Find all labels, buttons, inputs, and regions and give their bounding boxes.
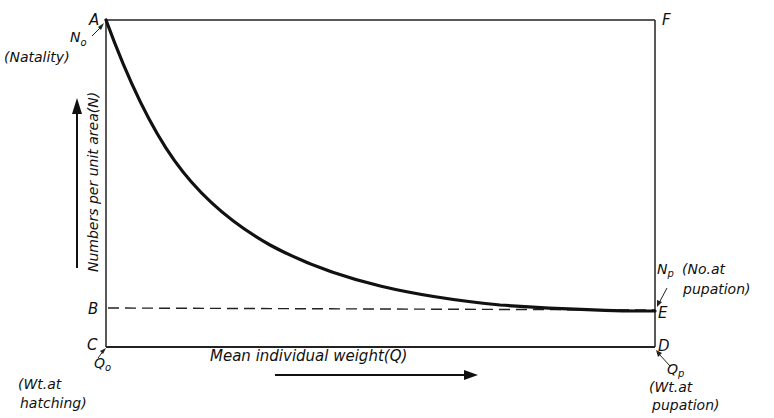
hatching-arrowhead-icon (100, 348, 106, 354)
pupation-weight-subscript: p (677, 368, 684, 379)
pupation-number-label-line1: (No.at (682, 261, 726, 277)
population-weight-diagram: A F B C E D No (Natality) Numbers per un… (0, 0, 774, 418)
pupation-number-label-line2: pupation) (682, 281, 751, 297)
natality-subscript: o (80, 37, 86, 48)
pupation-number-annotation: Np (No.at pupation) (657, 261, 751, 307)
natality-annotation: No (Natality) (4, 23, 104, 65)
pupation-number-symbol: N (657, 261, 668, 277)
x-axis-label: Mean individual weight(Q) (210, 347, 407, 365)
hatching-label-line1: (Wt.at (18, 376, 62, 392)
pupation-weight-annotation: Qp (Wt.at pupation) (649, 350, 720, 413)
pupation-weight-symbol: Q (667, 361, 678, 377)
svg-text:No: No (70, 29, 87, 48)
svg-text:Np: Np (657, 261, 674, 279)
hatching-label-line2: hatching) (20, 395, 87, 411)
point-label-e: E (658, 304, 668, 322)
natality-symbol: N (70, 29, 81, 45)
pupation-weight-label-line1: (Wt.at (649, 379, 693, 395)
pupation-number-subscript: p (666, 268, 673, 279)
hatching-weight-annotation: Qo (Wt.at hatching) (18, 348, 111, 411)
natality-label: (Natality) (4, 49, 70, 65)
population-curve (106, 20, 655, 311)
svg-text:Qo: Qo (94, 355, 111, 373)
point-label-a: A (88, 11, 99, 29)
pupation-number-pointer-arrow-icon (659, 288, 667, 303)
svg-text:Qp: Qp (667, 361, 684, 379)
point-label-f: F (662, 11, 671, 29)
hatching-subscript: o (105, 362, 111, 373)
y-axis-up-arrow-icon (72, 98, 82, 268)
hatching-symbol: Q (94, 355, 105, 371)
y-axis-label: Numbers per unit area(N) (85, 92, 101, 272)
x-axis-right-arrow-icon (275, 370, 478, 380)
pupation-weight-label-line2: pupation) (651, 397, 720, 413)
point-label-b: B (88, 300, 98, 318)
point-label-c: C (87, 336, 98, 354)
